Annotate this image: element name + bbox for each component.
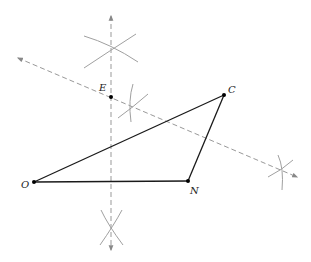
point-C [222,93,226,97]
perpendicular-bisector-slanted [18,58,297,177]
point-E [109,95,113,99]
segment-CO [34,95,224,182]
point-N [186,179,190,183]
label-N: N [189,185,200,196]
diagram-canvas: O N C E [0,0,311,262]
point-O [32,180,36,184]
construction-arcs [84,34,293,245]
triangle-OCN [34,95,224,182]
geometry-diagram: O N C E [0,0,311,262]
segment-NC [188,95,224,181]
label-C: C [228,84,236,95]
label-O: O [21,179,29,190]
label-E: E [98,82,107,93]
segment-ON [34,181,188,182]
